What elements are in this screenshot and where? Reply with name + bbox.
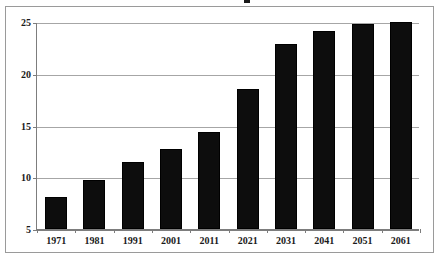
x-tick-mark-8: [343, 229, 344, 233]
plot-area: 510152025 197119811991200120112021203120…: [36, 23, 419, 230]
x-tick-mark-3: [152, 229, 153, 233]
bar-2051[interactable]: [352, 24, 374, 229]
x-tick-label-2011: 2011: [200, 236, 219, 246]
x-tick-label-2041: 2041: [314, 236, 334, 246]
x-tick-mark-2: [114, 229, 115, 233]
bar-1971[interactable]: [45, 197, 67, 229]
x-tick-label-2001: 2001: [161, 236, 181, 246]
x-tick-mark-0: [37, 229, 38, 233]
x-tick-mark-4: [190, 229, 191, 233]
x-tick-mark-5: [229, 229, 230, 233]
chart-frame: 510152025 197119811991200120112021203120…: [5, 6, 434, 253]
x-tick-label-2031: 2031: [276, 236, 296, 246]
bar-2021[interactable]: [237, 89, 259, 229]
x-tick-label-1991: 1991: [123, 236, 143, 246]
bar-2031[interactable]: [275, 44, 297, 229]
x-tick-mark-end: [420, 229, 421, 233]
y-tick-label-10: 10: [21, 173, 31, 183]
bars-layer: [37, 23, 419, 229]
y-tick-label-20: 20: [21, 70, 31, 80]
x-tick-mark-9: [382, 229, 383, 233]
x-tick-mark-7: [305, 229, 306, 233]
y-tick-label-15: 15: [21, 122, 31, 132]
y-tick-label-25: 25: [21, 18, 31, 28]
bar-2061[interactable]: [390, 22, 412, 229]
bar-2011[interactable]: [198, 132, 220, 229]
bar-2001[interactable]: [160, 149, 182, 229]
x-tick-label-2051: 2051: [353, 236, 373, 246]
bar-2041[interactable]: [313, 31, 335, 229]
bar-1991[interactable]: [122, 162, 144, 229]
x-tick-label-1981: 1981: [84, 236, 104, 246]
x-tick-mark-6: [267, 229, 268, 233]
cropped-chart-title-fragment: [244, 0, 250, 3]
x-tick-mark-1: [75, 229, 76, 233]
y-tick-label-5: 5: [26, 225, 31, 235]
x-tick-label-2021: 2021: [238, 236, 258, 246]
x-tick-label-2061: 2061: [391, 236, 411, 246]
bar-1981[interactable]: [83, 180, 105, 229]
x-tick-label-1971: 1971: [46, 236, 66, 246]
